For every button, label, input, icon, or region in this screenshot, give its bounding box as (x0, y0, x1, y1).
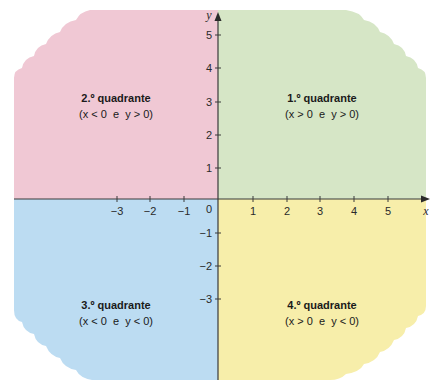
y-tick-label: 3 (206, 96, 212, 108)
x-tick-label: −2 (144, 205, 157, 217)
quadrant-4-condition: (x > 0 e y < 0) (285, 315, 359, 327)
cartesian-plane-diagram: −3 −2 −1 1 2 3 4 5 0 5 4 3 2 1 −1 −2 −3 … (0, 0, 440, 386)
origin-label: 0 (206, 203, 212, 215)
quadrant-1-region (218, 10, 426, 199)
quadrant-3-region (14, 199, 218, 380)
x-axis-label: x (422, 204, 429, 218)
x-tick-label: −1 (178, 205, 191, 217)
quadrant-3-title: 3.º quadrante (81, 299, 150, 311)
y-tick-label: −3 (199, 293, 212, 305)
y-tick-label: −1 (199, 227, 212, 239)
quadrant-3-condition: (x < 0 e y < 0) (79, 315, 153, 327)
quadrant-1-title: 1.º quadrante (287, 92, 356, 104)
x-tick-label: 5 (385, 205, 391, 217)
quadrant-1-condition: (x > 0 e y > 0) (285, 108, 359, 120)
quadrant-2-region (14, 10, 218, 199)
y-tick-label: 2 (206, 129, 212, 141)
y-tick-label: −2 (199, 260, 212, 272)
quadrant-4-region (218, 199, 426, 380)
y-axis-label: y (205, 8, 212, 22)
quadrant-4-title: 4.º quadrante (287, 299, 356, 311)
x-tick-label: −3 (111, 205, 124, 217)
x-tick-label: 1 (250, 205, 256, 217)
y-tick-label: 1 (206, 162, 212, 174)
y-tick-label: 4 (206, 62, 212, 74)
x-tick-label: 4 (351, 205, 357, 217)
y-tick-label: 5 (206, 29, 212, 41)
quadrant-2-title: 2.º quadrante (81, 92, 150, 104)
quadrant-2-condition: (x < 0 e y > 0) (79, 108, 153, 120)
x-tick-label: 3 (317, 205, 323, 217)
x-tick-label: 2 (284, 205, 290, 217)
